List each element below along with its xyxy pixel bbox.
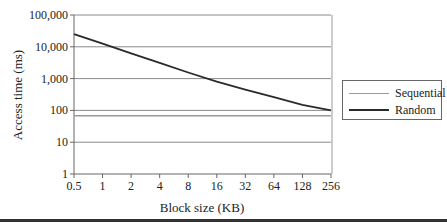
x-tick-label: 2 [128,179,134,193]
y-tick-label: 10 [56,135,68,149]
legend-swatch-sequential [349,93,389,94]
x-tick-label: 64 [268,179,280,193]
x-tick-label: 128 [293,179,311,193]
x-tick-label: 16 [211,179,223,193]
y-axis-title: Access time (ms) [10,50,25,140]
x-tick-label: 256 [322,179,340,193]
legend: Sequential Random [342,80,442,120]
gridlines [74,15,332,174]
x-axis: 0.51248163264128256 [67,174,341,193]
page-divider [0,219,447,222]
x-tick-label: 0.5 [67,179,82,193]
x-tick-label: 32 [239,179,251,193]
legend-item-random: Random [349,103,436,117]
y-tick-label: 1,000 [41,72,68,86]
series-line-random [74,34,331,110]
y-tick-label: 100 [50,103,68,117]
y-tick-label: 10,000 [35,40,68,54]
legend-item-sequential: Sequential [349,86,446,100]
legend-label: Random [395,103,436,118]
legend-swatch-random [349,109,389,111]
y-tick-label: 100,000 [29,8,68,22]
x-axis-title: Block size (KB) [160,200,244,215]
x-tick-label: 4 [157,179,163,193]
x-tick-label: 1 [100,179,106,193]
x-tick-label: 8 [185,179,191,193]
legend-label: Sequential [395,86,446,101]
y-axis: 1101001,00010,000100,000 [29,8,74,181]
